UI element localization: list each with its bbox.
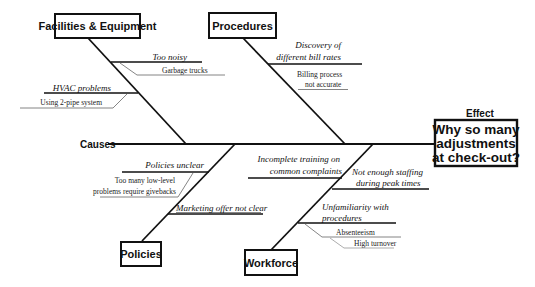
sub-cause-billing-line-1: Billing process	[297, 70, 342, 79]
sub-cause-using-2-pipe-system: Using 2-pipe system	[40, 98, 102, 107]
category-label: Facilities & Equipment	[39, 20, 157, 32]
cause-staffing-line-1: Not enough staffing	[351, 167, 424, 177]
cause-too-noisy: Too noisy	[153, 52, 187, 62]
sub-cause-garbage-trucks: Garbage trucks	[162, 66, 208, 75]
cause-unfamiliarity-line-1: Unfamiliarity with	[322, 202, 389, 212]
cause-hvac-problems: HVAC problems	[52, 83, 112, 93]
sub-cause-too-many-line-1: Too many low-level	[115, 176, 175, 185]
effect-line-3: at check-out?	[432, 150, 520, 165]
cause-incomplete-training-line-1: Incomplete training on	[257, 154, 341, 164]
cause-policies-unclear: Policies unclear	[144, 160, 204, 170]
cause-discovery-line-1: Discovery of	[294, 40, 342, 50]
sub-cause-high-turnover: High turnover	[354, 239, 397, 248]
cause-staffing-line-2: during peak times	[356, 178, 421, 188]
causes-label: Causes	[80, 139, 116, 150]
cause-incomplete-training-line-2: common complaints	[270, 166, 343, 176]
category-workforce: Workforce Incomplete training on common …	[244, 144, 429, 275]
effect-line-1: Why so many	[432, 122, 520, 137]
cause-marketing-offer: Marketing offer not clear	[175, 203, 268, 213]
sub-cause-billing-line-2: not accurate	[305, 80, 342, 89]
category-policies: Policies Policies unclear Too many low-l…	[93, 144, 268, 266]
cause-unfamiliarity-line-2: procedures	[321, 213, 362, 223]
category-label: Procedures	[212, 20, 273, 32]
sub-cause-absenteeism: Absenteeism	[336, 228, 375, 237]
effect-line-2: adjustments	[436, 136, 516, 151]
category-label: Workforce	[244, 257, 298, 269]
fishbone-diagram: Causes Effect Why so many adjustments at…	[0, 0, 535, 287]
effect-label: Effect	[466, 108, 494, 119]
effect-box: Why so many adjustments at check-out?	[432, 120, 520, 166]
category-label: Policies	[120, 248, 162, 260]
cause-discovery-line-2: different bill rates	[276, 52, 341, 62]
sub-cause-too-many-line-2: problems require givebacks	[93, 187, 176, 196]
category-procedures: Procedures Discovery of different bill r…	[209, 13, 362, 144]
category-facilities-equipment: Facilities & Equipment Too noisy Garbage…	[20, 14, 225, 144]
